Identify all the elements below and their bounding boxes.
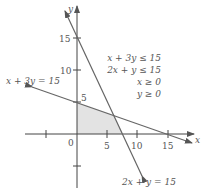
feasible-region	[77, 102, 123, 134]
y-tick-label-10: 10	[60, 66, 72, 76]
constraint-1: x + 3y ≤ 15	[107, 53, 161, 63]
line-x-plus-3y-eq-15	[32, 87, 192, 143]
y-axis-label: y	[67, 4, 74, 14]
constraint-4: y ≥ 0	[136, 89, 161, 99]
line-label-x-plus-3y: x + 3y = 15	[6, 76, 60, 86]
constraint-2: 2x + y ≤ 15	[106, 65, 161, 75]
x-tick-label-10: 10	[131, 141, 143, 151]
origin-label: 0	[68, 138, 74, 148]
line-label-2x-plus-y: 2x + y = 15	[121, 177, 176, 187]
constraint-3: x ≥ 0	[137, 77, 161, 87]
y-tick-label-15: 15	[59, 34, 71, 44]
graph: y x 0 5 10 15 5 10 15 x + 3y = 15 2x + y…	[0, 0, 203, 192]
constraint-system: x + 3y ≤ 15 2x + y ≤ 15 x ≥ 0 y ≥ 0	[106, 53, 161, 99]
x-tick-label-5: 5	[104, 141, 110, 151]
y-tick-label-5: 5	[81, 93, 87, 103]
x-tick-label-15: 15	[162, 141, 174, 151]
x-axis-label: x	[195, 135, 200, 145]
